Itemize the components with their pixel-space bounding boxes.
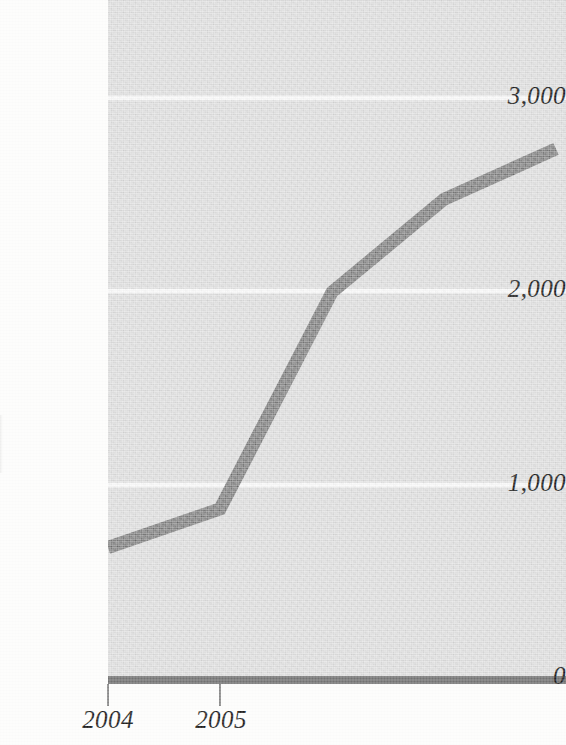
y-tick-label-1000: 1,000 bbox=[470, 469, 566, 497]
y-tick-label-0: 0 bbox=[470, 662, 566, 690]
y-tick-label-2000: 2,000 bbox=[470, 275, 566, 303]
x-tick-2005 bbox=[219, 684, 221, 706]
x-tick-label-2005: 2005 bbox=[195, 706, 247, 734]
x-tick-2004 bbox=[107, 684, 109, 706]
scan-edge-artifact bbox=[0, 415, 3, 473]
chart-figure: 3,000 2,000 1,000 0 2004 2005 bbox=[0, 0, 566, 745]
y-tick-label-3000: 3,000 bbox=[470, 82, 566, 110]
x-tick-label-2004: 2004 bbox=[82, 706, 134, 734]
